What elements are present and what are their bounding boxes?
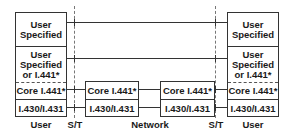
- right-user-label: User: [227, 119, 279, 130]
- layer-user-specified: User Specified: [16, 13, 66, 46]
- network-node-2: Core I.441* I.430/I.431: [160, 81, 215, 117]
- right-user-protocol-stack: User Specified User Specified or I.441* …: [227, 12, 279, 117]
- layer-core-i441: Core I.441*: [86, 82, 138, 99]
- tick: [74, 104, 75, 111]
- tick: [215, 55, 216, 62]
- network-node-1: Core I.441* I.430/I.431: [85, 81, 139, 117]
- tick: [215, 104, 216, 111]
- tick: [74, 86, 75, 93]
- layer-i430-i431: I.430/I.431: [16, 99, 66, 117]
- left-user-label: User: [15, 119, 67, 130]
- link-user-specified-or-i441: [66, 58, 227, 59]
- link-physical-middle: [138, 107, 160, 108]
- link-core-left: [66, 89, 85, 90]
- layer-user-specified-or-i441: User Specified or I.441*: [16, 46, 66, 82]
- right-st-label: S/T: [205, 119, 227, 130]
- layer-core-i441: Core I.441*: [228, 82, 278, 99]
- layer-i430-i431: I.430/I.431: [161, 99, 214, 117]
- layer-i430-i431: I.430/I.431: [86, 99, 138, 117]
- link-core-middle: [138, 89, 160, 90]
- left-user-protocol-stack: User Specified User Specified or I.441* …: [15, 12, 67, 117]
- layer-core-i441: Core I.441*: [161, 82, 214, 99]
- tick: [215, 86, 216, 93]
- layer-i430-i431: I.430/I.431: [228, 99, 278, 117]
- link-user-specified: [66, 22, 227, 23]
- tick: [74, 55, 75, 62]
- tick: [74, 19, 75, 26]
- network-label: Network: [120, 119, 180, 130]
- layer-core-i441: Core I.441*: [16, 82, 66, 99]
- tick: [215, 19, 216, 26]
- link-physical-left: [66, 107, 85, 108]
- layer-user-specified-or-i441: User Specified or I.441*: [228, 46, 278, 82]
- layer-user-specified: User Specified: [228, 13, 278, 46]
- left-st-label: S/T: [64, 119, 86, 130]
